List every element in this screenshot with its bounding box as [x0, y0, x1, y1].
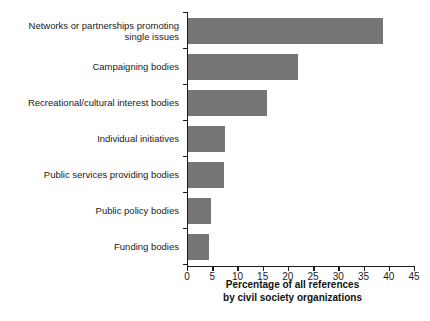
bar [188, 18, 383, 44]
x-axis-line [187, 266, 414, 267]
category-label-text: Campaigning bodies [92, 61, 179, 73]
x-axis-tick [288, 266, 289, 271]
category-label-text: Networks or partnerships promoting singl… [29, 20, 179, 43]
y-axis-tick [183, 228, 188, 229]
y-axis-tick [183, 48, 188, 49]
category-label: Networks or partnerships promoting singl… [0, 18, 179, 44]
x-axis-tick [313, 266, 314, 271]
category-label: Individual initiatives [0, 126, 179, 152]
x-axis-tick [364, 266, 365, 271]
y-axis-tick [183, 156, 188, 157]
bar [188, 198, 211, 224]
category-label: Campaigning bodies [0, 54, 179, 80]
bar [188, 54, 298, 80]
y-axis-tick [183, 192, 188, 193]
x-axis-tick [389, 266, 390, 271]
bar [188, 90, 267, 116]
category-label: Recreational/cultural interest bodies [0, 90, 179, 116]
category-label: Public policy bodies [0, 198, 179, 224]
plot-area: 051015202530354045 [187, 12, 418, 266]
y-axis-tick [183, 12, 188, 13]
bar [188, 162, 224, 188]
category-label-text: Public services providing bodies [44, 169, 179, 181]
bar [188, 126, 225, 152]
category-label: Funding bodies [0, 234, 179, 260]
x-axis-tick [212, 266, 213, 271]
category-label: Public services providing bodies [0, 162, 179, 188]
x-axis-tick [263, 266, 264, 271]
category-label-text: Recreational/cultural interest bodies [28, 97, 179, 109]
y-axis-tick [183, 120, 188, 121]
category-label-text: Funding bodies [114, 241, 179, 253]
category-label-text: Public policy bodies [96, 205, 179, 217]
category-axis-labels: Networks or partnerships promoting singl… [0, 0, 183, 266]
x-axis-title: Percentage of all references by civil so… [155, 279, 430, 304]
x-axis-tick [338, 266, 339, 271]
y-axis-tick [183, 84, 188, 85]
category-label-text: Individual initiatives [97, 133, 179, 145]
bar [188, 234, 209, 260]
x-axis-tick [187, 266, 188, 271]
x-axis-tick [414, 266, 415, 271]
bar-chart: Networks or partnerships promoting singl… [0, 0, 430, 321]
x-axis-tick [237, 266, 238, 271]
